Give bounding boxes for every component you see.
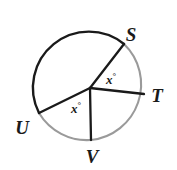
vertex-label-u: U	[15, 118, 29, 137]
angle-label-sot: x°	[106, 72, 116, 86]
vertex-label-s: S	[126, 25, 137, 44]
radius-to-v	[90, 88, 91, 140]
arc-highlight-v-to-u	[39, 113, 91, 140]
vertex-label-v: V	[86, 147, 99, 166]
degree-symbol-1: °	[112, 71, 116, 81]
geometry-figure: S T U V x° x°	[0, 0, 177, 170]
vertex-label-t: T	[151, 86, 163, 105]
degree-symbol-2: °	[77, 100, 81, 110]
angle-label-uov: x°	[71, 101, 81, 115]
radius-to-t	[90, 88, 144, 94]
radius-to-u	[39, 88, 90, 113]
